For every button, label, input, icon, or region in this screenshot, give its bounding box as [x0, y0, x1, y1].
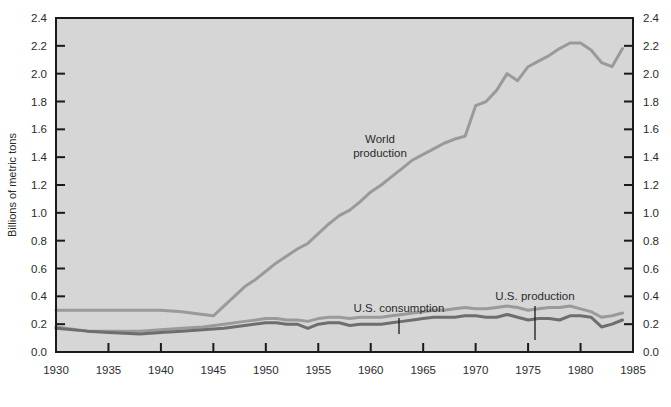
y-tick-label-right: 1.4 [643, 151, 660, 163]
y-tick-label-left: 0.8 [31, 235, 47, 247]
chart-figure: 0.00.20.40.60.81.01.21.41.61.82.02.22.4 … [0, 0, 671, 407]
y-tick-label-left: 2.0 [31, 68, 47, 80]
y-tick-label-right: 0.4 [643, 290, 660, 302]
y-tick-label-right: 1.0 [643, 207, 659, 219]
y-tick-label-left: 2.4 [31, 12, 48, 24]
annotation-us-production: U.S. production [495, 290, 574, 302]
y-tick-label-right: 1.8 [643, 96, 659, 108]
y-tick-label-right: 0.8 [643, 235, 659, 247]
y-tick-label-left: 0.0 [31, 346, 47, 358]
x-tick-label: 1965 [410, 364, 436, 376]
x-tick-label: 1970 [463, 364, 489, 376]
x-tick-label: 1940 [148, 364, 174, 376]
annotation-line: U.S. production [495, 290, 574, 302]
y-tick-label-left: 1.4 [31, 151, 48, 163]
chart-canvas: 0.00.20.40.60.81.01.21.41.61.82.02.22.4 … [0, 0, 671, 407]
y-tick-label-right: 0.0 [643, 346, 659, 358]
y-tick-label-left: 2.2 [31, 40, 47, 52]
x-tick-label: 1930 [43, 364, 69, 376]
y-tick-label-right: 2.0 [643, 68, 659, 80]
x-tick-label: 1935 [96, 364, 122, 376]
x-tick-label: 1950 [253, 364, 279, 376]
y-tick-label-right: 2.4 [643, 12, 660, 24]
y-tick-label-right: 1.6 [643, 123, 659, 135]
x-tick-label: 1975 [515, 364, 541, 376]
x-tick-label: 1960 [358, 364, 384, 376]
y-tick-label-left: 0.2 [31, 318, 47, 330]
y-axis-title: Billions of metric tons [6, 133, 18, 237]
y-tick-label-left: 0.6 [31, 263, 47, 275]
x-tick-label: 1980 [568, 364, 594, 376]
annotation-us-consumption: U.S. consumption [354, 302, 445, 314]
y-tick-label-left: 1.2 [31, 179, 47, 191]
y-tick-label-left: 0.4 [31, 290, 48, 302]
annotation-line: U.S. consumption [354, 302, 445, 314]
x-tick-label: 1945 [201, 364, 227, 376]
y-tick-label-left: 1.8 [31, 96, 47, 108]
y-tick-label-right: 1.2 [643, 179, 659, 191]
y-tick-label-right: 0.2 [643, 318, 659, 330]
y-tick-label-left: 1.0 [31, 207, 47, 219]
annotation-line: production [353, 147, 407, 159]
y-tick-label-left: 1.6 [31, 123, 47, 135]
y-tick-label-right: 2.2 [643, 40, 659, 52]
x-tick-label: 1985 [620, 364, 646, 376]
annotation-line: World [365, 133, 395, 145]
y-tick-label-right: 0.6 [643, 263, 659, 275]
x-tick-label: 1955 [305, 364, 331, 376]
